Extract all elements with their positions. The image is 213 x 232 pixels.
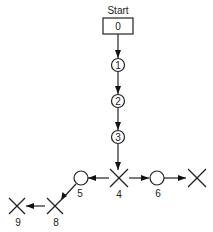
edge-5-8 xyxy=(61,184,76,200)
edge-3-4 xyxy=(115,144,121,171)
arrowhead-icon xyxy=(115,50,121,58)
node-3-label: 3 xyxy=(115,132,121,143)
node-0: 0 xyxy=(103,18,133,34)
node-6-label: 6 xyxy=(155,188,161,199)
node-9-label: 9 xyxy=(15,217,21,228)
edge-4-6 xyxy=(129,175,149,181)
node-9: 9 xyxy=(9,198,25,228)
node-1-label: 1 xyxy=(115,60,121,71)
node-4-label: 4 xyxy=(116,189,122,200)
node-3: 3 xyxy=(112,131,125,144)
arrowhead-icon xyxy=(141,175,149,181)
node-8-label: 8 xyxy=(53,217,59,228)
edge-2-3 xyxy=(115,108,121,131)
node-4: 4 xyxy=(110,169,128,200)
node-1: 1 xyxy=(112,59,125,72)
edge-6-7 xyxy=(164,175,186,181)
edge-8-9 xyxy=(26,203,45,209)
tree-diagram: Start 0 1 2 3 4 xyxy=(0,0,213,232)
node-8: 8 xyxy=(47,198,63,228)
node-0-label: 0 xyxy=(115,21,121,32)
arrowhead-icon xyxy=(178,175,186,181)
arrowhead-icon xyxy=(88,175,96,181)
arrowhead-icon xyxy=(26,203,34,209)
start-label: Start xyxy=(107,5,128,16)
node-2-label: 2 xyxy=(115,96,121,107)
node-2: 2 xyxy=(112,95,125,108)
arrowhead-icon xyxy=(115,122,121,130)
node-6: 6 xyxy=(150,171,164,199)
node-circle xyxy=(74,171,88,185)
arrowhead-icon xyxy=(115,86,121,94)
edge-4-5 xyxy=(88,175,109,181)
node-5: 5 xyxy=(74,171,88,199)
edge-1-2 xyxy=(115,72,121,95)
node-5-label: 5 xyxy=(77,188,83,199)
arrowhead-icon xyxy=(115,162,121,170)
edge-0-1 xyxy=(115,34,121,58)
node-circle xyxy=(150,171,164,185)
node-7 xyxy=(188,169,206,187)
